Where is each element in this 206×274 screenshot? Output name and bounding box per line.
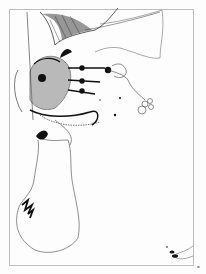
flower-stems [68, 66, 111, 94]
ornate-fan-plume [40, 8, 163, 58]
winding-contour-shape [17, 120, 80, 252]
corner-mark: ▪ [197, 264, 200, 269]
ink-illustration [0, 0, 206, 274]
ink-splatter-bottom-right [166, 246, 193, 259]
knotted-loop-ornament [108, 64, 154, 114]
zigzag-ink-stroke [22, 200, 33, 218]
artwork-page: ▪ [0, 0, 206, 274]
patterned-heart-face [15, 49, 100, 125]
ink-blot [36, 130, 48, 139]
ink-splatter-dots [99, 97, 121, 116]
